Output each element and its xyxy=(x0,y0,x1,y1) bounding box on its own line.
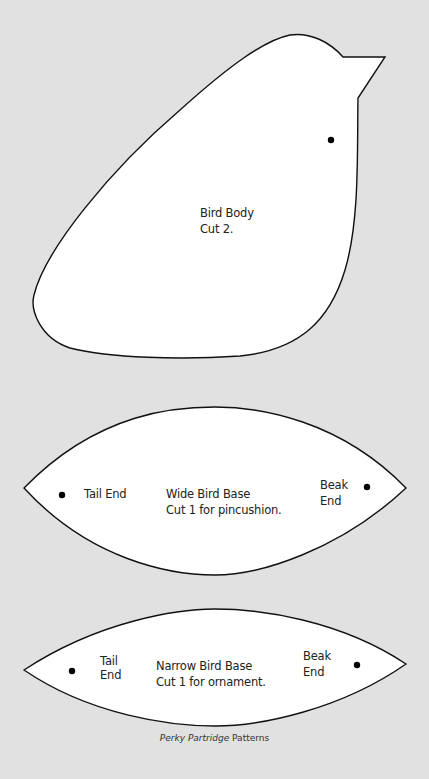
narrow-base-title: Narrow Bird Base xyxy=(156,658,252,674)
bird-body-title: Bird Body xyxy=(200,205,254,221)
wide-base-tail-label: Tail End xyxy=(84,486,126,502)
caption-italic: Perky Partridge xyxy=(160,733,229,743)
caption-rest: Patterns xyxy=(229,733,269,743)
narrow-base-tail-dot xyxy=(69,668,75,674)
narrow-base-instruction: Cut 1 for ornament. xyxy=(156,674,266,690)
bird-body-instruction: Cut 2. xyxy=(200,221,233,237)
bird-body-outline xyxy=(33,34,385,357)
narrow-base-tail-label-2: End xyxy=(100,667,121,683)
wide-base-tail-dot xyxy=(59,492,65,498)
bird-body-eye-dot xyxy=(328,137,334,143)
wide-base-beak-label-2: End xyxy=(320,493,341,509)
caption: Perky Partridge Patterns xyxy=(0,733,429,743)
wide-base-beak-dot xyxy=(364,484,370,490)
wide-base-beak-label-1: Beak xyxy=(320,477,348,493)
narrow-base-beak-label-1: Beak xyxy=(303,648,331,664)
wide-base-instruction: Cut 1 for pincushion. xyxy=(166,502,282,518)
wide-base-title: Wide Bird Base xyxy=(166,486,250,502)
narrow-base-beak-label-2: End xyxy=(303,664,324,680)
narrow-base-beak-dot xyxy=(354,662,360,668)
